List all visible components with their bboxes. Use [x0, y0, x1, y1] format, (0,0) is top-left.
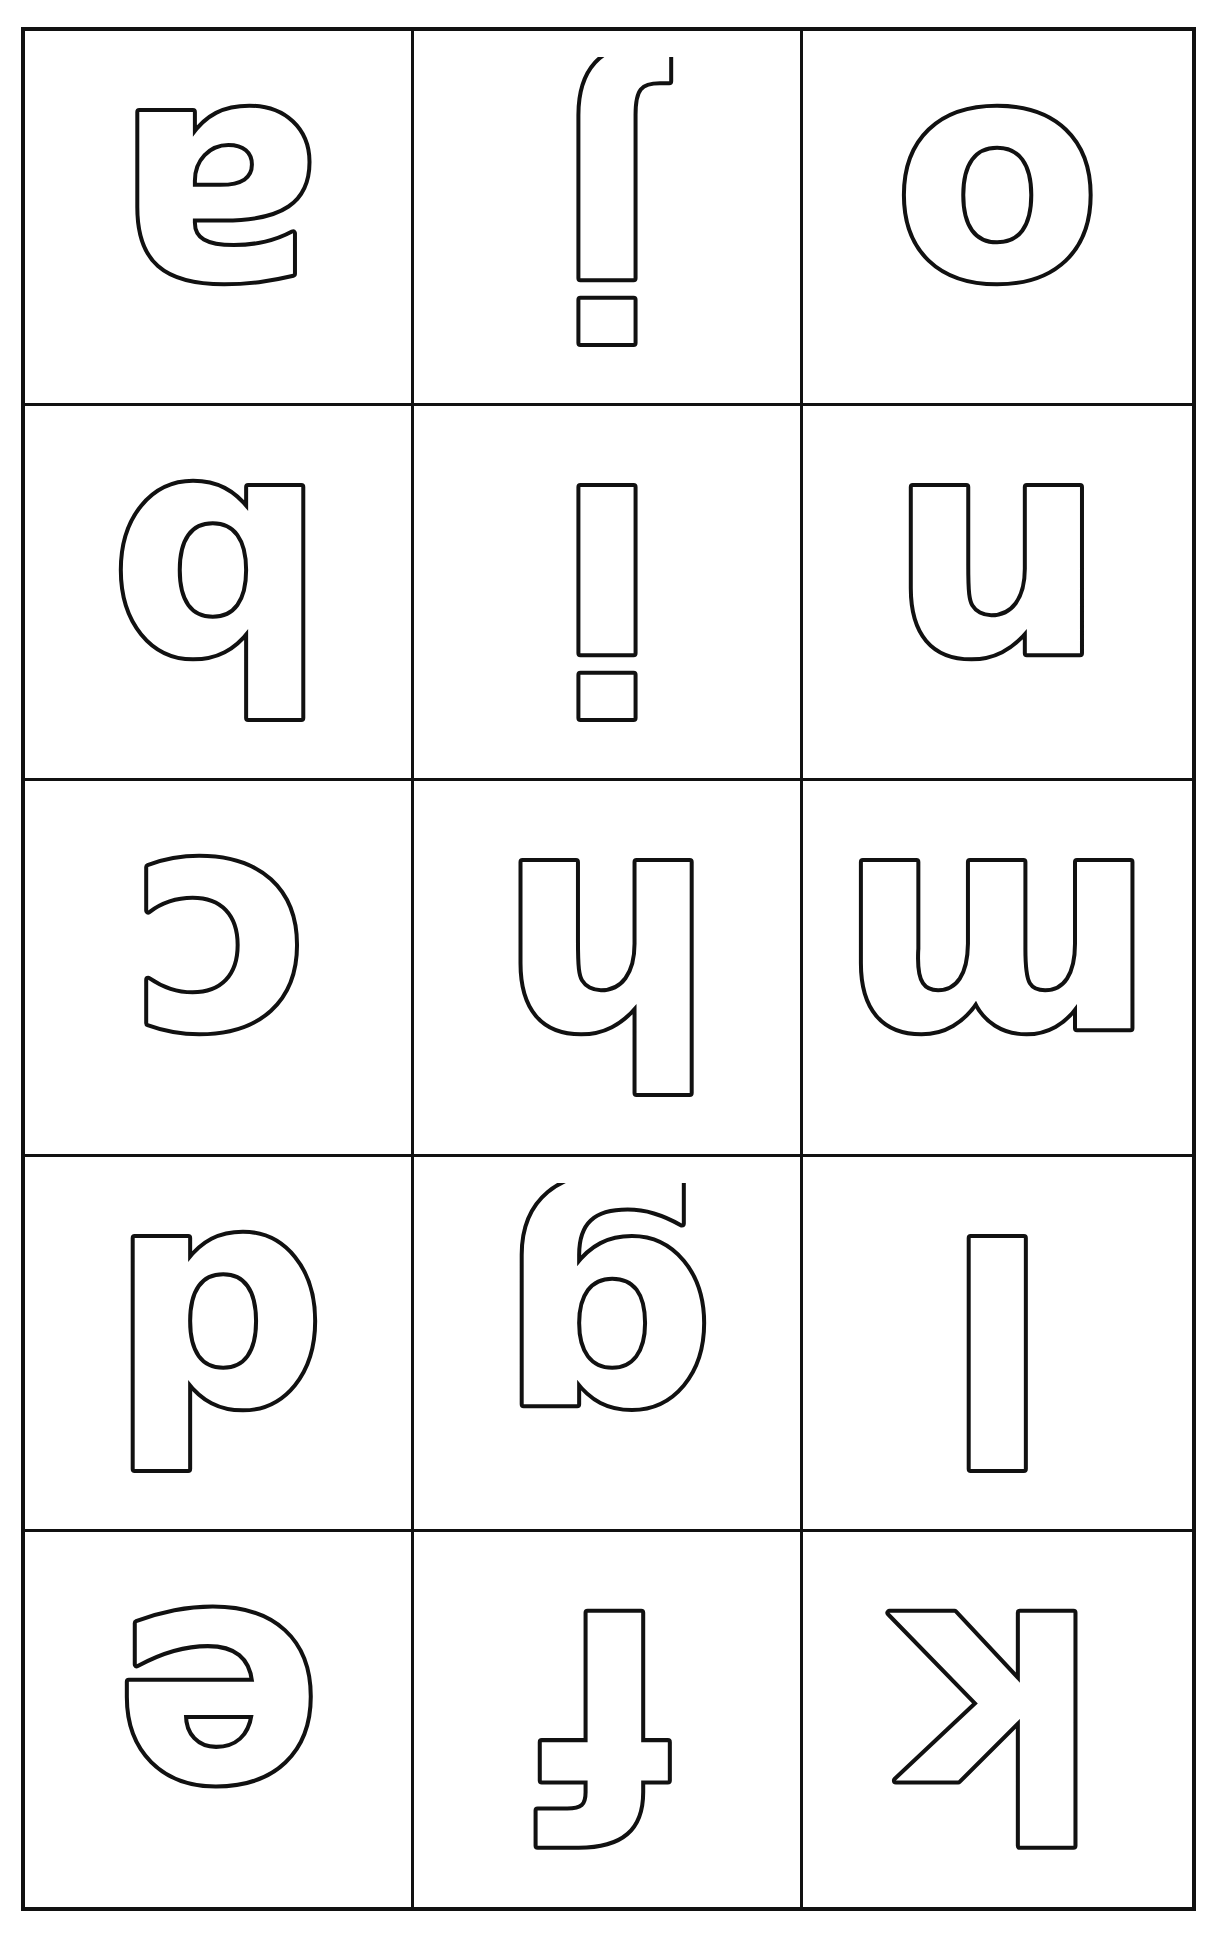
letter-glyph-text: i [555, 432, 659, 752]
grid-cell-r3c1[interactable]: c [25, 781, 414, 1156]
grid-cell-r3c3[interactable]: m [803, 781, 1192, 1156]
letter-d-rotated: d [52, 1183, 384, 1503]
letter-glyph-text: l [945, 1183, 1049, 1503]
grid-cell-r1c2[interactable]: j [414, 31, 803, 406]
letter-m-rotated: m [830, 807, 1165, 1127]
letter-l-rotated: l [830, 1183, 1165, 1503]
letter-glyph-text: n [889, 432, 1105, 752]
grid-cell-r2c1[interactable]: b [25, 406, 414, 781]
grid-cell-r4c2[interactable]: g [414, 1157, 803, 1532]
letter-glyph-text: j [555, 57, 673, 377]
grid-cell-r5c2[interactable]: f [414, 1532, 803, 1907]
letter-glyph-text: g [498, 1183, 716, 1503]
letter-b-rotated: b [52, 432, 384, 752]
grid-cell-r1c3[interactable]: o [803, 31, 1192, 406]
letter-k-rotated: k [830, 1558, 1165, 1881]
worksheet-page: ajobinchmdglefk [0, 0, 1217, 1936]
grid-cell-r1c1[interactable]: a [25, 31, 414, 406]
letter-n-rotated: n [830, 432, 1165, 752]
letter-c-rotated: c [52, 807, 384, 1127]
letter-g-rotated: g [441, 1183, 773, 1503]
grid-cell-r5c1[interactable]: e [25, 1532, 414, 1907]
grid-cell-r4c3[interactable]: l [803, 1157, 1192, 1532]
letter-glyph-text: e [114, 1558, 322, 1881]
grid-cell-r5c3[interactable]: k [803, 1532, 1192, 1907]
letter-glyph-text: d [109, 1183, 327, 1503]
letter-i-rotated: i [441, 432, 773, 752]
letter-glyph-text: h [499, 807, 715, 1127]
letter-f-rotated: f [441, 1558, 773, 1881]
letter-j-rotated: j [441, 57, 773, 377]
letter-glyph-text: b [109, 432, 327, 752]
letter-glyph-text: m [839, 807, 1156, 1127]
letter-grid: ajobinchmdglefk [21, 27, 1196, 1911]
grid-cell-r4c1[interactable]: d [25, 1157, 414, 1532]
letter-o-rotated: o [830, 57, 1165, 377]
letter-e-rotated: e [52, 1558, 384, 1881]
letter-h-rotated: h [441, 807, 773, 1127]
letter-glyph-text: f [535, 1558, 674, 1881]
letter-glyph-text: c [128, 807, 308, 1127]
letter-a-rotated: a [52, 57, 384, 377]
grid-cell-r2c3[interactable]: n [803, 406, 1192, 781]
grid-cell-r2c2[interactable]: i [414, 406, 803, 781]
letter-glyph-text: a [115, 57, 320, 377]
letter-glyph-text: k [889, 1558, 1100, 1881]
grid-cell-r3c2[interactable]: h [414, 781, 803, 1156]
letter-glyph-text: o [893, 57, 1102, 377]
